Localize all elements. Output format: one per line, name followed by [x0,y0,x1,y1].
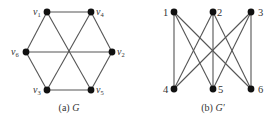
g-edge-v2-v5 [91,52,112,90]
caption-g-prime-prefix: (b) [201,102,215,114]
g-prime-label-6: 6 [258,84,263,95]
g-vertex-v4 [88,9,95,16]
g-vertex-v5 [88,87,95,94]
g-prime-label-3: 3 [258,7,263,18]
g-label-v1: v1 [33,6,41,18]
g-prime-label-2: 2 [217,7,222,18]
g-prime-label-4: 4 [163,84,169,95]
caption-g-name: G [72,102,79,113]
g-vertex-v2 [109,49,116,56]
g-label-v6: v6 [11,46,19,58]
g-edge-v1-v6 [26,12,47,52]
g-label-v5: v5 [96,84,104,96]
g-vertex-v6 [23,49,30,56]
caption-g-prefix: (a) [59,102,73,114]
g-label-v2: v2 [117,46,125,58]
graph-figure: v1v4v6v2v3v5 (a) G 123456 (b) G′ [0,0,272,117]
g-prime-vertex-3 [248,9,255,16]
g-prime-vertex-1 [171,9,178,16]
g-prime-vertex-5 [210,86,217,93]
graph-g-edges [26,12,112,90]
g-prime-vertex-4 [171,86,178,93]
graph-g-prime-edges [174,12,251,89]
caption-g-prime-name: G′ [215,102,225,113]
caption-graph-g-prime: (b) G′ [201,102,225,114]
g-prime-vertex-2 [210,9,217,16]
g-prime-label-5: 5 [218,84,223,95]
g-edge-v4-v2 [91,12,112,52]
caption-graph-g: (a) G [59,102,80,114]
g-vertex-v3 [44,87,51,94]
g-prime-vertex-6 [248,86,255,93]
g-label-v3: v3 [33,84,41,96]
g-vertex-v1 [44,9,51,16]
g-label-v4: v4 [96,6,104,18]
g-prime-label-1: 1 [163,7,168,18]
